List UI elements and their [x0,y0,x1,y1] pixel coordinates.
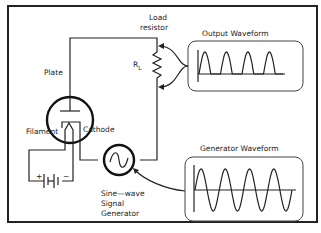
filament-wire-left [29,143,65,181]
filament-electrode [65,123,73,143]
plate-label: Plate [44,68,63,77]
battery-icon [44,174,58,188]
cathode-wire [80,143,98,160]
filament-label: Filament [26,127,58,136]
load-resistor [153,48,161,84]
generator-label-line1: Sine—wave [101,189,145,198]
arrowhead-bottom [158,84,164,90]
load-resistor-label-line2: resistor [140,23,169,32]
battery-minus-label: − [63,172,69,181]
generator-label-line2: Signal [101,199,124,208]
resistor-return-wire [140,84,157,160]
circuit-diagram: + − Load resistor RL Plate Filament Cath… [0,0,321,233]
output-waveform-line [199,52,285,74]
output-waveform-box [188,41,303,91]
sine-icon [110,153,128,168]
generator-waveform-title: Generator Waveform [200,144,279,153]
rl-label: RL [133,60,142,71]
load-resistor-label-line1: Load [149,13,167,22]
pointer-generator [136,171,185,191]
pointer-bottom [161,66,188,87]
battery-plus-label: + [36,172,42,181]
plate-wire [70,38,157,97]
cathode-label: Cathode [83,125,115,134]
pointer-top [161,46,188,66]
generator-label-line3: Generator [101,209,140,218]
output-waveform-title: Output Waveform [202,29,269,38]
arrowhead-top [158,43,164,49]
